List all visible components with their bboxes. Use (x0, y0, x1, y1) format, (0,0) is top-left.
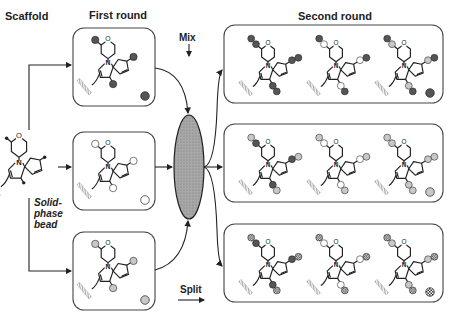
building-block-circle (109, 284, 116, 291)
mix-pool-ellipse (174, 115, 204, 219)
svg-text:N: N (334, 261, 339, 268)
svg-text:N: N (334, 161, 339, 168)
building-block-circle (130, 157, 137, 164)
svg-text:O: O (266, 238, 271, 245)
building-block-circle (92, 240, 99, 247)
svg-text:N: N (266, 161, 271, 168)
third-to-mix-arrow (155, 221, 188, 270)
svg-text:N: N (402, 62, 407, 69)
building-block-circle (295, 253, 302, 260)
scaffold-to-first-arrow (29, 65, 71, 130)
building-block-circle (389, 240, 396, 247)
building-block-circle (316, 234, 323, 241)
building-block-circle (357, 57, 364, 64)
bead-tag-circle (141, 196, 150, 205)
building-block-circle (384, 234, 391, 241)
building-block-circle (357, 156, 364, 163)
first-round-heading: First round (89, 9, 147, 21)
svg-text:O: O (105, 139, 110, 146)
building-block-circle (321, 41, 328, 48)
building-block-circle (289, 57, 296, 64)
building-block-circle (425, 256, 432, 263)
bead-tag-circle (141, 92, 150, 101)
building-block-circle (109, 80, 116, 87)
building-block-circle (409, 88, 416, 95)
svg-text:N: N (334, 62, 339, 69)
building-block-circle (273, 187, 280, 194)
building-block-circle (363, 54, 370, 61)
svg-text:O: O (402, 238, 407, 245)
building-block-circle (357, 256, 364, 263)
building-block-circle (289, 156, 296, 163)
building-block-circle (431, 54, 438, 61)
building-block-circle (130, 257, 137, 264)
svg-text:O: O (334, 39, 339, 46)
building-block-circle (341, 88, 348, 95)
building-block-circle (363, 153, 370, 160)
building-block-circle (248, 234, 255, 241)
second-round-heading: Second round (298, 10, 372, 22)
building-block-circle (109, 184, 116, 191)
svg-text:O: O (334, 238, 339, 245)
svg-text:O: O (334, 138, 339, 145)
building-block-circle (92, 140, 99, 147)
building-block-circle (409, 187, 416, 194)
svg-text:O: O (105, 35, 110, 42)
solid-phase-bead-label: Solid- phase bead (34, 197, 63, 230)
building-block-circle (253, 240, 260, 247)
building-block-circle (130, 53, 137, 60)
building-block-circle (363, 253, 370, 260)
svg-text:O: O (266, 138, 271, 145)
building-block-circle (341, 187, 348, 194)
svg-text:N: N (16, 158, 21, 167)
svg-text:O: O (105, 239, 110, 246)
svg-text:N: N (106, 59, 111, 66)
split-and-mix-diagram: ONONONONONONONONONONONONON (0, 0, 451, 318)
building-block-circle (409, 287, 416, 294)
building-block-circle (273, 287, 280, 294)
building-block-circle (425, 156, 432, 163)
building-block-circle (321, 140, 328, 147)
mix-to-second-round-3-arrow (204, 167, 222, 266)
building-block-circle (321, 240, 328, 247)
building-block-circle (248, 35, 255, 42)
building-block-circle (273, 88, 280, 95)
building-block-circle (253, 140, 260, 147)
building-block-circle (341, 287, 348, 294)
svg-text:N: N (266, 62, 271, 69)
building-block-circle (431, 253, 438, 260)
building-block-circle (295, 153, 302, 160)
bead-tag-circle (426, 288, 435, 297)
building-block-circle (431, 153, 438, 160)
building-block-circle (389, 41, 396, 48)
building-block-circle (425, 57, 432, 64)
scaffold-heading: Scaffold (5, 10, 48, 22)
building-block-circle (253, 41, 260, 48)
svg-text:O: O (266, 39, 271, 46)
building-block-circle (384, 35, 391, 42)
first-to-mix-arrow (155, 68, 188, 113)
building-block-circle (289, 256, 296, 263)
svg-text:N: N (266, 261, 271, 268)
building-block-circle (316, 35, 323, 42)
bead-tag-circle (141, 296, 150, 305)
svg-text:N: N (402, 161, 407, 168)
svg-text:O: O (402, 39, 407, 46)
mix-to-second-round-1-arrow (204, 70, 222, 167)
building-block-circle (92, 36, 99, 43)
building-block-circle (295, 54, 302, 61)
svg-text:O: O (16, 131, 22, 140)
svg-text:N: N (106, 163, 111, 170)
bead-tag-circle (426, 188, 435, 197)
building-block-circle (248, 134, 255, 141)
svg-text:N: N (106, 263, 111, 270)
svg-text:N: N (402, 261, 407, 268)
building-block-circle (316, 134, 323, 141)
building-block-circle (384, 134, 391, 141)
bead-tag-circle (426, 89, 435, 98)
molecule: ON (0, 131, 46, 198)
building-block-circle (389, 140, 396, 147)
split-label: Split (180, 284, 202, 295)
svg-text:O: O (402, 138, 407, 145)
mix-label: Mix (179, 32, 196, 43)
